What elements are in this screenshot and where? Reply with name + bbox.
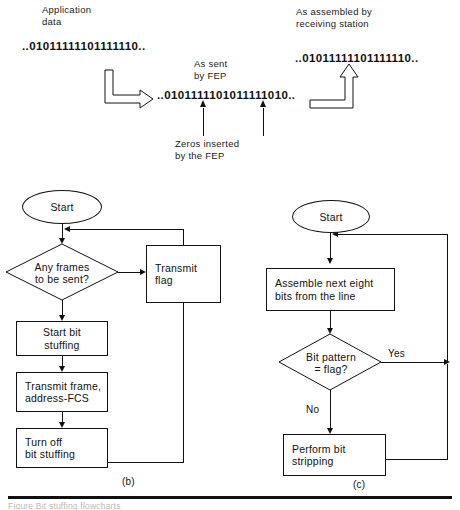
panel-letter-b: (b) (122, 476, 135, 487)
node-b-start[interactable]: Start (22, 190, 102, 224)
panel-letter-c: (c) (353, 479, 365, 490)
elbow-arrow-up-icon (310, 64, 358, 108)
edge-b-turnoff-to-flag (108, 303, 183, 462)
zero-insert-marker-1 (200, 100, 206, 136)
node-b-transmit-frame-label: Transmit frame, address-FCS (25, 380, 101, 405)
figure-bottom-rule (8, 496, 452, 499)
bitstring-as-assembled: ..01011111101111110.. (295, 52, 419, 64)
decision-diamond-b (6, 244, 118, 300)
bitstring-application-data: ..01011111101111110.. (22, 40, 146, 52)
node-b-turn-off[interactable]: Turn off bit stuffing (16, 428, 108, 468)
node-b-start-label: Start (50, 201, 73, 213)
figure-caption: Figure Bit stuffing flowcharts (8, 501, 452, 510)
node-c-decision-label: Bit pattern = flag? (288, 348, 374, 378)
node-b-decision-label: Any frames to be sent? (14, 258, 110, 288)
node-c-assemble[interactable]: Assemble next eight bits from the line (266, 268, 395, 311)
label-zeros-inserted: Zeros inserted by the FEP (175, 138, 239, 161)
label-application-data: Application data (42, 4, 91, 27)
edge-c-strip-to-rail (386, 364, 447, 459)
node-b-start-bit-stuffing-label: Start bit stuffing (43, 326, 81, 351)
node-b-transmit-flag[interactable]: Transmit flag (146, 245, 221, 303)
edge-label-c-no: No (306, 404, 319, 415)
decision-diamond-c (279, 334, 381, 390)
zero-insert-marker-2 (260, 100, 266, 136)
label-as-assembled: As assembled by receiving station (296, 6, 372, 29)
node-c-perform-stripping[interactable]: Perform bit stripping (283, 434, 386, 476)
node-c-start-label: Start (319, 211, 342, 223)
bitstring-as-sent: ..0101111101011111010.. (157, 89, 295, 101)
node-c-perform-stripping-label: Perform bit stripping (292, 443, 346, 468)
node-b-transmit-frame[interactable]: Transmit frame, address-FCS (16, 372, 108, 412)
node-b-turn-off-label: Turn off bit stuffing (25, 436, 75, 461)
node-c-assemble-label: Assemble next eight bits from the line (275, 277, 373, 302)
node-b-start-bit-stuffing[interactable]: Start bit stuffing (16, 321, 108, 356)
node-c-start[interactable]: Start (292, 200, 370, 233)
figure-canvas: Application data ..01011111101111110.. A… (0, 0, 460, 510)
label-as-sent-by-fep: As sent by FEP (194, 58, 227, 81)
edge-label-c-yes: Yes (388, 348, 405, 359)
elbow-arrow-right-icon (105, 70, 153, 108)
node-b-transmit-flag-label: Transmit flag (155, 262, 197, 287)
edge-b-flag-loop-top (70, 229, 183, 245)
